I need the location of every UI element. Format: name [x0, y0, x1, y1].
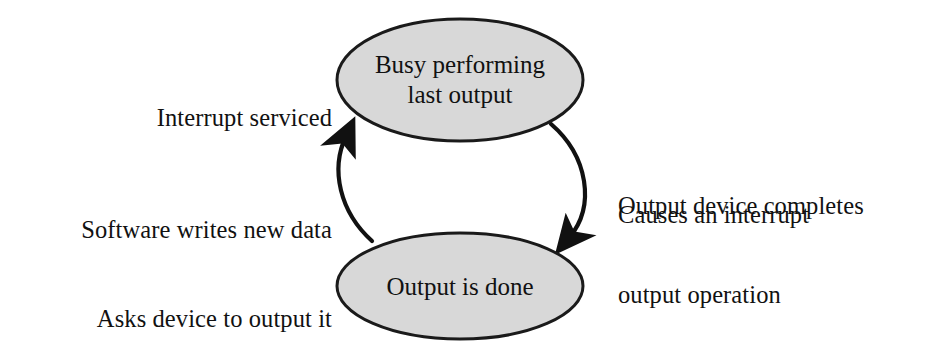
node-busy-ellipse — [337, 19, 583, 141]
edge-label-output-device-completes: Output device completes output operation — [618, 131, 929, 361]
edge-busy-to-done — [551, 124, 585, 238]
edge-label-output-device-line2: output operation — [618, 280, 929, 310]
node-output-is-done[interactable]: Output is done — [337, 233, 583, 339]
edge-label-causes-an-interrupt: Causes an interrupt — [618, 200, 929, 230]
node-busy-label-line1: Busy performing — [375, 51, 546, 78]
state-diagram: Busy performing last output Output is do… — [0, 0, 929, 361]
node-output-done-label: Output is done — [386, 273, 533, 300]
edge-done-to-busy — [338, 136, 372, 241]
node-busy-performing-last-output[interactable]: Busy performing last output — [337, 19, 583, 141]
edge-label-interrupt-serviced: Interrupt serviced — [0, 103, 332, 133]
edge-label-software-writes: Software writes new data Asks device to … — [0, 155, 332, 361]
node-busy-label-line2: last output — [408, 81, 513, 108]
edge-label-software-writes-line1: Software writes new data — [0, 215, 332, 245]
edge-label-software-writes-line2: Asks device to output it — [0, 304, 332, 334]
